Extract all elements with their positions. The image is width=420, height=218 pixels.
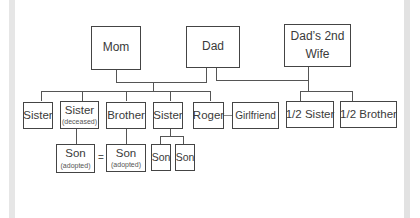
drop-son-adopted-2 (126, 129, 127, 144)
connector-mom-dad (116, 82, 207, 83)
person-half-sister: 1/2 Sister (286, 101, 334, 128)
person-label: Son (65, 147, 85, 160)
person-label: Roger (193, 109, 224, 122)
person-roger: Roger (193, 102, 224, 129)
person-label: Sister (23, 109, 52, 122)
person-label: Son (116, 147, 136, 160)
person-son-2: Son (175, 144, 195, 171)
person-girlfriend: Girlfriend (232, 102, 279, 129)
person-note: (adopted) (111, 161, 141, 169)
person-dads-2nd-wife: Dad’s 2nd Wife (284, 24, 351, 67)
person-label: 1/2 Brother (340, 108, 397, 121)
person-label: Sister (153, 109, 182, 122)
equal-sign: = (98, 152, 104, 163)
person-son-adopted-1: Son (adopted) (56, 144, 95, 173)
person-label: Sister (65, 104, 94, 117)
connector-sister3-sons-bus (160, 136, 184, 137)
person-half-brother: 1/2 Brother (340, 101, 397, 128)
person-sister-3: Sister (153, 102, 183, 129)
drop-roger (210, 91, 211, 101)
person-sister-1: Sister (23, 102, 53, 129)
drop-half-brother (352, 91, 353, 101)
person-label: 1/2 Sister (286, 108, 335, 121)
person-label: Dad (202, 40, 224, 54)
drop-half-sister (300, 91, 301, 101)
drop-son-2 (183, 136, 184, 144)
drop-sister1 (41, 91, 42, 101)
drop-son-1 (160, 136, 161, 144)
page-border-right (404, 0, 410, 218)
drop-son-adopted-1 (76, 129, 77, 144)
person-son-adopted-2: Son (adopted) (106, 144, 146, 172)
person-label: Girlfriend (235, 110, 276, 122)
connector-half-siblings-bus (300, 91, 353, 92)
person-note: (adopted) (61, 162, 91, 170)
connector-wife2-stem (308, 67, 309, 91)
person-dad: Dad (186, 26, 240, 68)
person-son-1: Son (151, 144, 171, 171)
drop-sister3 (170, 91, 171, 101)
person-mom: Mom (91, 26, 141, 70)
connector-roger-girlfriend (224, 115, 232, 116)
page-border-left (9, 0, 15, 218)
person-label-line1: Dad’s 2nd (291, 30, 345, 44)
person-sister-deceased: Sister (deceased) (60, 101, 99, 129)
person-note: (deceased) (62, 118, 97, 126)
person-label: Brother (107, 109, 145, 122)
connector-dad-wife2 (216, 80, 309, 81)
connector-dad-stem-1 (206, 68, 207, 83)
drop-sister2 (82, 91, 83, 101)
person-label: Mom (103, 41, 130, 55)
person-label: Son (152, 151, 171, 163)
drop-brother (126, 91, 127, 101)
person-label: Son (176, 151, 195, 163)
person-label-line2: Wife (306, 48, 330, 62)
person-brother: Brother (106, 102, 146, 129)
